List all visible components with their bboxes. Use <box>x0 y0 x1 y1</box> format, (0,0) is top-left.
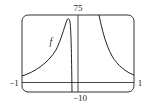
y-max-label: 75 <box>74 3 84 13</box>
graph-window: 75 −10 −1 1 f <box>0 0 147 110</box>
function-label: f <box>50 36 54 47</box>
function-curve-right-branch <box>99 15 134 75</box>
x-max-label: 1 <box>138 78 143 88</box>
x-min-label: −1 <box>9 78 19 88</box>
y-min-label: −10 <box>73 93 88 103</box>
function-curve-left-branch <box>22 19 72 92</box>
